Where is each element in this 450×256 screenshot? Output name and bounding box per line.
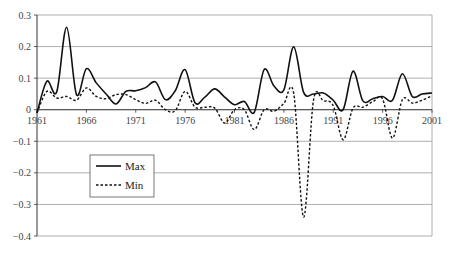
legend: Max Min [90,155,154,197]
x-tick-label: 1961 [27,115,47,126]
x-tick-label: 2001 [422,115,442,126]
y-tick-label: 0.3 [19,10,32,21]
y-tick-label: −0.4 [13,231,31,242]
y-tick-label: 0 [26,104,31,115]
y-tick-label: −0.2 [13,167,31,178]
x-tick-label: 1971 [126,115,146,126]
x-tick-label: 1991 [323,115,343,126]
x-tick-label: 1976 [175,115,195,126]
x-tick-label: 1966 [76,115,96,126]
legend-label-min: Min [125,179,144,191]
line-chart: 0.30.20.10−0.1−0.2−0.3−0.4 1961196619711… [0,0,450,256]
x-tick-label: 1986 [274,115,294,126]
series-line-min [37,87,432,217]
series-line-max [37,27,432,113]
x-tick-label: 1996 [373,115,393,126]
legend-label-max: Max [125,160,146,172]
x-axis-tick-labels: 196119661971197619811986199119962001 [27,110,442,126]
y-tick-label: 0.2 [19,41,32,52]
y-tick-label: −0.1 [13,136,31,147]
y-tick-label: −0.3 [13,199,31,210]
y-tick-label: 0.1 [19,73,32,84]
